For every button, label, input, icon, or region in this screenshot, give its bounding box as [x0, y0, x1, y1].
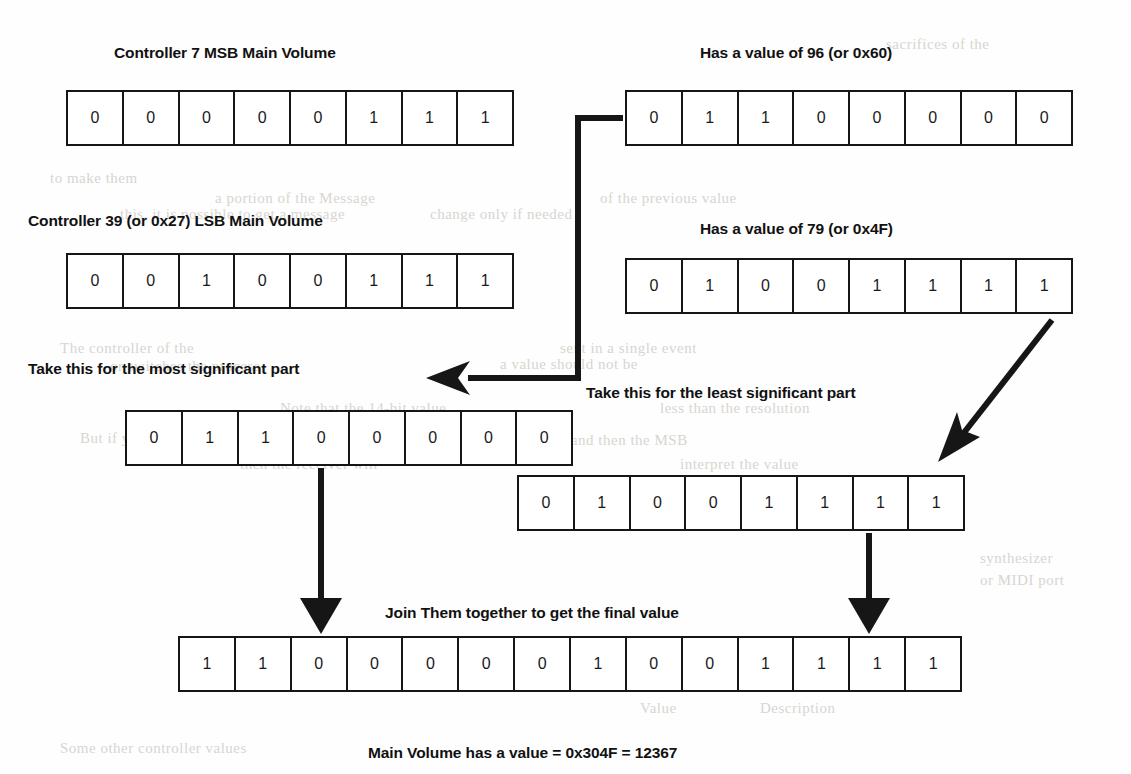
- bit-cell[interactable]: 1: [403, 92, 459, 144]
- diagram-canvas: sacrifices of theto make thema portion o…: [0, 0, 1131, 774]
- label-controller39-lsb: Controller 39 (or 0x27) LSB Main Volume: [28, 212, 323, 230]
- bit-cell[interactable]: 0: [235, 255, 291, 307]
- label-value-79: Has a value of 79 (or 0x4F): [700, 220, 893, 238]
- bit-cell[interactable]: 0: [291, 255, 347, 307]
- bit-cell[interactable]: 0: [124, 92, 180, 144]
- bit-cell[interactable]: 0: [459, 638, 515, 690]
- label-most-significant-part: Take this for the most significant part: [28, 360, 299, 378]
- bleed-through-text: interpret the value: [680, 456, 799, 473]
- bit-cell[interactable]: 1: [683, 92, 739, 144]
- bleed-through-text: change only if needed: [430, 206, 573, 223]
- bit-cell[interactable]: 1: [571, 638, 627, 690]
- diagonal-to-least-significant-arrow: [938, 320, 1052, 462]
- bleed-through-text: The controller of the: [60, 340, 194, 357]
- bleed-through-text: Description: [760, 700, 835, 717]
- label-main-volume-result: Main Volume has a value = 0x304F = 12367: [368, 744, 677, 762]
- bit-cell[interactable]: 0: [127, 412, 183, 464]
- bleed-through-text: a portion of the Message: [215, 190, 375, 207]
- bit-cell[interactable]: 0: [631, 477, 687, 529]
- bitrow-value-79[interactable]: 01001111: [625, 258, 1073, 314]
- bit-cell[interactable]: 0: [519, 477, 575, 529]
- bit-cell[interactable]: 0: [350, 412, 406, 464]
- bit-cell[interactable]: 0: [627, 260, 683, 312]
- bit-cell[interactable]: 0: [180, 92, 236, 144]
- bitrow-joined-final-value[interactable]: 11000001001111: [178, 636, 962, 692]
- bit-cell[interactable]: 0: [124, 255, 180, 307]
- bleed-through-text: a value should not be: [500, 356, 638, 373]
- bit-cell[interactable]: 0: [515, 638, 571, 690]
- bit-cell[interactable]: 1: [850, 638, 906, 690]
- bit-cell[interactable]: 1: [347, 255, 403, 307]
- bleed-through-text: Some other controller values: [60, 740, 247, 757]
- bleed-through-text: sent in a single event: [560, 340, 697, 357]
- bit-cell[interactable]: 1: [347, 92, 403, 144]
- bit-cell[interactable]: 0: [292, 638, 348, 690]
- bit-cell[interactable]: 0: [794, 92, 850, 144]
- bit-cell[interactable]: 0: [348, 638, 404, 690]
- bit-cell[interactable]: 1: [180, 638, 236, 690]
- bit-cell[interactable]: 1: [962, 260, 1018, 312]
- bit-cell[interactable]: 1: [458, 255, 512, 307]
- label-least-significant-part: Take this for the least significant part: [586, 384, 856, 402]
- bleed-through-text: sacrifices of the: [886, 36, 989, 53]
- bit-cell[interactable]: 0: [68, 255, 124, 307]
- bit-cell[interactable]: 1: [458, 92, 512, 144]
- bit-cell[interactable]: 1: [794, 638, 850, 690]
- bit-cell[interactable]: 0: [517, 412, 571, 464]
- bleed-through-text: synthesizer: [980, 550, 1053, 567]
- bitrow-most-significant-part[interactable]: 01100000: [125, 410, 573, 466]
- bit-cell[interactable]: 1: [850, 260, 906, 312]
- bit-cell[interactable]: 1: [739, 638, 795, 690]
- bit-cell[interactable]: 0: [962, 92, 1018, 144]
- bit-cell[interactable]: 1: [798, 477, 854, 529]
- bit-cell[interactable]: 1: [854, 477, 910, 529]
- bitrow-controller39-lsb[interactable]: 00100111: [66, 253, 514, 309]
- bitrow-value-96[interactable]: 01100000: [625, 90, 1073, 146]
- bit-cell[interactable]: 0: [406, 412, 462, 464]
- label-value-96: Has a value of 96 (or 0x60): [700, 44, 892, 62]
- bleed-through-text: of the previous value: [600, 190, 737, 207]
- bit-cell[interactable]: 0: [235, 92, 291, 144]
- bit-cell[interactable]: 1: [183, 412, 239, 464]
- bleed-through-text: or MIDI port: [980, 572, 1064, 589]
- bit-cell[interactable]: 1: [742, 477, 798, 529]
- bit-cell[interactable]: 1: [575, 477, 631, 529]
- bit-cell[interactable]: 1: [236, 638, 292, 690]
- bitrow-controller7-msb[interactable]: 00000111: [66, 90, 514, 146]
- bit-cell[interactable]: 1: [906, 260, 962, 312]
- bit-cell[interactable]: 0: [462, 412, 518, 464]
- bit-cell[interactable]: 1: [1017, 260, 1071, 312]
- bit-cell[interactable]: 0: [1017, 92, 1071, 144]
- bit-cell[interactable]: 0: [403, 638, 459, 690]
- bit-cell[interactable]: 1: [683, 260, 739, 312]
- bit-cell[interactable]: 0: [627, 638, 683, 690]
- bit-cell[interactable]: 1: [906, 638, 960, 690]
- down-arrow-right: [848, 533, 890, 634]
- bleed-through-text: Value: [640, 700, 677, 717]
- bit-cell[interactable]: 0: [850, 92, 906, 144]
- bit-cell[interactable]: 1: [180, 255, 236, 307]
- bit-cell[interactable]: 0: [906, 92, 962, 144]
- bit-cell[interactable]: 0: [627, 92, 683, 144]
- bit-cell[interactable]: 1: [909, 477, 963, 529]
- bit-cell[interactable]: 0: [291, 92, 347, 144]
- bit-cell[interactable]: 0: [68, 92, 124, 144]
- bit-cell[interactable]: 1: [403, 255, 459, 307]
- bleed-through-text: less than the resolution: [660, 400, 810, 417]
- bit-cell[interactable]: 0: [794, 260, 850, 312]
- bit-cell[interactable]: 0: [739, 260, 795, 312]
- down-arrow-left: [300, 468, 342, 634]
- label-controller7-msb: Controller 7 MSB Main Volume: [114, 44, 336, 62]
- bit-cell[interactable]: 0: [294, 412, 350, 464]
- bleed-through-text: to make them: [50, 170, 138, 187]
- label-joined-final-value: Join Them together to get the final valu…: [385, 604, 679, 622]
- bit-cell[interactable]: 0: [686, 477, 742, 529]
- bitrow-least-significant-part[interactable]: 01001111: [517, 475, 965, 531]
- bit-cell[interactable]: 0: [683, 638, 739, 690]
- bit-cell[interactable]: 1: [739, 92, 795, 144]
- bit-cell[interactable]: 1: [239, 412, 295, 464]
